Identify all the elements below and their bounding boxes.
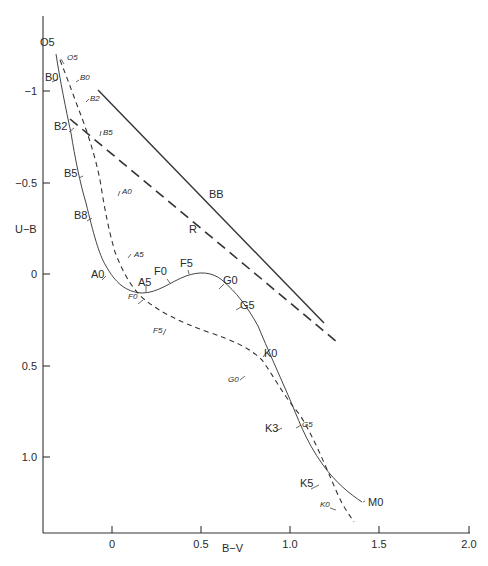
x-axis-ticks: 00.51.01.52.0: [109, 526, 477, 550]
spectral-tick: [76, 80, 79, 82]
spectral-tick: [128, 254, 131, 258]
spectral-tick: [100, 131, 101, 136]
spectral-tick: [296, 425, 301, 428]
supergiant-label-g5: G5: [302, 420, 313, 429]
supergiant-label-b0: B0: [80, 73, 90, 82]
x-axis-label: B−V: [222, 542, 244, 554]
spectral-tick: [138, 300, 143, 304]
spectral-tick: [86, 99, 89, 102]
x-tick-label: 2.0: [461, 538, 476, 550]
y-axis-label: U−B: [15, 223, 37, 235]
main-sequence-label-b2: B2: [54, 120, 67, 132]
reddening-label: R: [189, 223, 197, 235]
y-tick-label: 0.5: [22, 360, 37, 372]
reddening-line: [70, 119, 337, 342]
spectral-tick: [167, 279, 170, 283]
main-sequence-label-b8: B8: [74, 209, 87, 221]
main-sequence-label-a5: A5: [138, 276, 151, 288]
main-sequence-label-k5: K5: [300, 477, 313, 489]
x-tick-label: 0: [109, 538, 115, 550]
main-sequence-label-k3: K3: [265, 422, 278, 434]
spectral-tick: [363, 501, 365, 502]
y-tick-label: 1.0: [22, 451, 37, 463]
main-sequence-label-f0: F0: [154, 265, 167, 277]
main-sequence-label-b5: B5: [64, 167, 77, 179]
supergiant-label-k0: K0: [320, 500, 330, 509]
spectral-tick: [240, 376, 245, 380]
supergiant-label-g0: G0: [228, 375, 239, 384]
main-sequence-label-m0: M0: [368, 496, 383, 508]
x-tick-label: 0.5: [193, 538, 208, 550]
supergiant-label-b5: B5: [103, 128, 113, 137]
supergiant-label-a0: A0: [121, 187, 132, 196]
axes: 00.51.01.52.0 −1−0.500.51.0 B−V U−B: [15, 16, 477, 554]
main-sequence-spectral-labels: O5B0B2B5B8A0A5F0F5G0G5K0K3K5M0: [40, 36, 383, 508]
supergiant-label-f5: F5: [153, 326, 163, 335]
y-axis-ticks: −1−0.500.51.0: [15, 85, 50, 463]
x-tick-label: 1.0: [282, 538, 297, 550]
supergiant-label-f0: F0: [128, 292, 138, 301]
supergiant-spectral-labels: O5B0B2B5A0A5F0F5G0G5K0: [67, 53, 330, 509]
y-tick-label: −1: [24, 85, 37, 97]
blackbody-label: BB: [209, 188, 224, 200]
x-tick-label: 1.5: [371, 538, 386, 550]
supergiant-label-a5: A5: [133, 250, 144, 259]
spectral-tick: [330, 508, 336, 510]
main-sequence-label-g0: G0: [223, 274, 238, 286]
spectral-tick: [118, 191, 120, 196]
spectral-tick: [188, 270, 189, 274]
supergiant-label-b2: B2: [90, 94, 100, 103]
main-sequence-label-f5: F5: [180, 257, 193, 269]
spectral-tick: [163, 329, 166, 335]
main-sequence-label-o5: O5: [40, 36, 55, 48]
supergiant-spectral-ticks: [61, 59, 336, 510]
main-sequence-label-b0: B0: [45, 71, 58, 83]
supergiant-label-o5: O5: [67, 53, 78, 62]
main-sequence-label-k0: K0: [264, 347, 277, 359]
y-tick-label: 0: [31, 268, 37, 280]
main-sequence-label-a0: A0: [91, 268, 104, 280]
main-sequence-label-g5: G5: [240, 299, 255, 311]
y-tick-label: −0.5: [15, 177, 37, 189]
two-color-diagram: 00.51.01.52.0 −1−0.500.51.0 B−V U−B BB R…: [0, 0, 488, 566]
blackbody-line: [98, 90, 324, 323]
